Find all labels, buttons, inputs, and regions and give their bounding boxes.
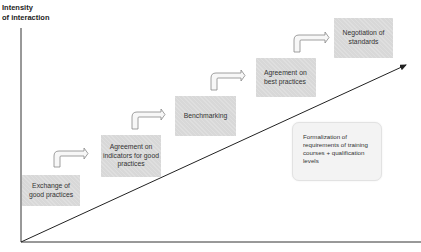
step-box-benchmarking: Benchmarking	[175, 96, 236, 136]
step-label: Agreement on best practices	[264, 69, 314, 86]
step-label: Exchange of good practices	[24, 182, 78, 199]
step-box-exchange: Exchange of good practices	[22, 175, 80, 206]
bent-arrow-icon	[294, 32, 329, 52]
bent-arrow-icon	[54, 148, 88, 167]
step-box-best-practices: Agreement on best practices	[256, 58, 316, 97]
step-label: Benchmarking	[184, 112, 227, 121]
bent-arrow-icon	[211, 70, 245, 90]
step-label: Negotiation of standards	[336, 29, 391, 46]
step-label: Agreement on indicators for good practic…	[103, 143, 159, 169]
bent-arrow-icon	[132, 109, 165, 129]
note-label: Formalization of requirements of trainin…	[303, 133, 368, 164]
step-box-indicators: Agreement on indicators for good practic…	[101, 135, 161, 177]
note-box-formalization: Formalization of requirements of trainin…	[292, 122, 382, 181]
step-box-standards: Negotiation of standards	[334, 18, 393, 58]
